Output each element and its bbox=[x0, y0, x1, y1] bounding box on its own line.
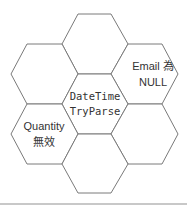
hexagon-center-label: DateTime TryParse bbox=[62, 89, 128, 119]
label-line: TryParse bbox=[62, 104, 128, 119]
label-line: Quantity bbox=[13, 118, 75, 134]
label-line: NULL bbox=[128, 74, 178, 90]
label-line: DateTime bbox=[62, 89, 128, 104]
bottom-divider bbox=[0, 203, 187, 205]
hexagon-lower-left-label: Quantity 無效 bbox=[13, 118, 75, 150]
hexagon-upper-right-label: Email 為 NULL bbox=[128, 58, 178, 90]
label-line: Email 為 bbox=[128, 58, 178, 74]
hexagon-diagram: Email 為 NULL DateTime TryParse Quantity … bbox=[0, 0, 189, 209]
label-line: 無效 bbox=[13, 134, 75, 150]
